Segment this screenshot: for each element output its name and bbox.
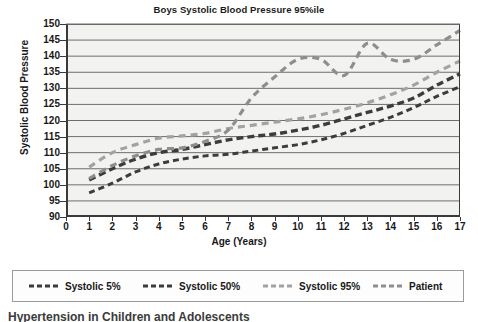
legend-swatch-icon	[373, 281, 403, 291]
chart-legend: Systolic 5%Systolic 50%Systolic 95%Patie…	[12, 270, 464, 302]
x-tick-label: 0	[63, 221, 69, 233]
series-line	[89, 87, 460, 193]
x-tick-label: 8	[249, 221, 255, 233]
legend-label: Systolic 50%	[179, 281, 240, 292]
x-tick-label: 13	[362, 221, 373, 233]
legend-swatch-icon	[143, 281, 173, 291]
y-tick-label: 120	[43, 116, 60, 126]
legend-item[interactable]: Systolic 95%	[263, 281, 360, 292]
x-tick-label: 1	[86, 221, 92, 233]
x-tick-label: 6	[202, 221, 208, 233]
plot-area	[66, 24, 460, 217]
legend-item[interactable]: Patient	[373, 281, 442, 292]
legend-label: Patient	[409, 281, 442, 292]
x-tick-label: 3	[133, 221, 139, 233]
y-tick-label: 110	[44, 148, 60, 158]
y-tick-label: 130	[43, 83, 60, 93]
x-axis-title: Age (Years)	[0, 236, 478, 247]
y-tick-label: 125	[43, 99, 60, 109]
x-tick-label: 11	[316, 221, 327, 233]
x-tick-label: 9	[272, 221, 278, 233]
x-tick-label: 5	[179, 221, 185, 233]
y-tick-label: 150	[43, 19, 60, 29]
x-tick-label: 15	[408, 221, 419, 233]
x-tick-label: 4	[156, 221, 162, 233]
legend-item[interactable]: Systolic 50%	[143, 281, 240, 292]
legend-swatch-icon	[29, 281, 59, 291]
x-tick-label: 7	[225, 221, 231, 233]
legend-label: Systolic 95%	[299, 281, 360, 292]
x-tick-label: 10	[292, 221, 303, 233]
screenshot-root: Boys Systolic Blood Pressure 95%ile Syst…	[0, 0, 478, 322]
chart-title: Boys Systolic Blood Pressure 95%ile	[0, 4, 478, 15]
x-tick-label: 14	[385, 221, 396, 233]
legend-label: Systolic 5%	[65, 281, 121, 292]
y-tick-label: 135	[43, 67, 60, 77]
y-tick-label: 140	[43, 51, 60, 61]
x-tick-label: 17	[454, 221, 465, 233]
y-tick-label: 105	[43, 164, 60, 174]
y-tick-label: 95	[49, 196, 60, 206]
legend-item[interactable]: Systolic 5%	[29, 281, 121, 292]
series-lines	[66, 24, 460, 217]
y-tick-label: 115	[44, 132, 60, 142]
bottom-caption: Hypertension in Children and Adolescents	[8, 311, 478, 322]
x-tick-label: 16	[431, 221, 442, 233]
x-tick-label: 2	[110, 221, 116, 233]
x-tick-label: 12	[339, 221, 350, 233]
y-axis-tick-labels: 9095100105110115120125130135140145150	[24, 24, 60, 217]
y-tick-label: 145	[43, 35, 60, 45]
y-tick-label: 100	[43, 180, 60, 190]
x-axis-tick-labels: 01234567891011121314151617	[0, 221, 478, 235]
legend-swatch-icon	[263, 281, 293, 291]
